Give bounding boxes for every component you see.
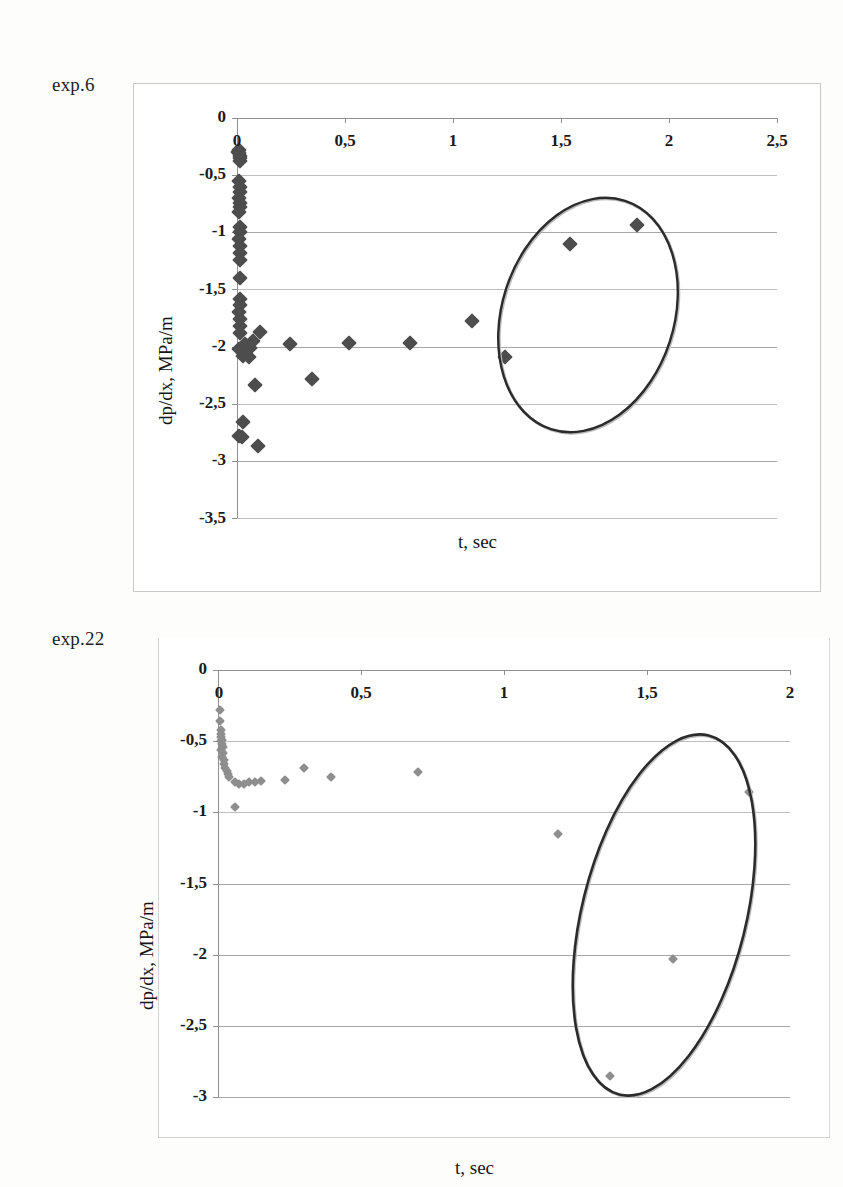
data-point <box>744 787 754 797</box>
ytick22-label-0: 0 <box>141 659 207 679</box>
data-point <box>553 829 563 839</box>
page-canvas: exp.6 <box>0 0 843 1187</box>
ytick-label-0p5: -0,5 <box>160 164 226 184</box>
figure-exp6: exp.6 <box>0 0 843 610</box>
data-point <box>562 236 578 252</box>
y-axis-title-exp22: dp/dx, MPa/m <box>136 901 158 1010</box>
data-point <box>342 335 358 351</box>
data-point <box>282 337 298 353</box>
data-point <box>497 349 513 365</box>
data-point <box>304 371 320 387</box>
x-axis-title-exp6: t, sec <box>458 531 497 553</box>
ytick22-label-0p5: -0,5 <box>141 730 207 750</box>
data-point <box>465 314 481 330</box>
xtick22-label-2: 2 <box>770 683 810 703</box>
figure-caption-exp22: exp.22 <box>52 628 104 650</box>
ytick22-label-1p5: -1,5 <box>141 873 207 893</box>
xtick-label-1: 1 <box>433 131 473 151</box>
figure-caption-exp6: exp.6 <box>52 74 95 96</box>
plot-area-exp6 <box>237 118 777 518</box>
plot-area-exp22 <box>218 670 790 1097</box>
xtick-label-1p5: 1,5 <box>541 131 581 151</box>
data-point <box>668 954 678 964</box>
data-point <box>326 772 336 782</box>
ytick22-label-2p5: -2,5 <box>141 1015 207 1035</box>
ytick-label-1p5: -1,5 <box>160 279 226 299</box>
ytick22-3 <box>213 1097 218 1098</box>
ytick22-label-3: -3 <box>141 1086 207 1106</box>
data-point <box>248 378 264 394</box>
marker-layer-exp6 <box>237 118 777 518</box>
data-point <box>605 1071 615 1081</box>
xtick-label-0p5: 0,5 <box>325 131 365 151</box>
ytick-3p5 <box>232 518 237 519</box>
xtick22-label-0p5: 0,5 <box>341 683 381 703</box>
xtick-label-2p5: 2,5 <box>757 131 797 151</box>
data-point <box>402 335 418 351</box>
gridline-y22-3 <box>218 1097 790 1098</box>
data-point <box>413 768 423 778</box>
data-point <box>629 218 645 234</box>
data-point <box>280 775 290 785</box>
xtick-label-0: 0 <box>217 131 257 151</box>
xtick22-label-1: 1 <box>484 683 524 703</box>
figure-exp22: exp.22 <box>0 610 843 1187</box>
ytick-label-0: 0 <box>160 107 226 127</box>
marker-layer-exp22 <box>218 670 790 1097</box>
xtick22-label-1p5: 1,5 <box>627 683 667 703</box>
ytick22-label-1: -1 <box>141 801 207 821</box>
data-point <box>299 763 309 773</box>
ytick-label-3: -3 <box>160 450 226 470</box>
x-axis-title-exp22: t, sec <box>455 1157 494 1179</box>
ytick-label-1: -1 <box>160 221 226 241</box>
xtick-2p5 <box>777 118 778 123</box>
xtick22-label-0: 0 <box>199 683 239 703</box>
data-point <box>230 802 240 812</box>
xtick-label-2: 2 <box>649 131 689 151</box>
data-point <box>250 438 266 454</box>
gridline-y-3p5 <box>237 518 777 519</box>
xtick22-2 <box>790 670 791 675</box>
y-axis-title-exp6: dp/dx, MPa/m <box>155 316 177 425</box>
ytick-label-3p5: -3,5 <box>160 508 226 528</box>
